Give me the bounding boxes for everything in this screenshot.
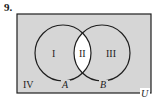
region-label-iii: III <box>106 48 116 59</box>
region-label-ii: II <box>79 48 86 59</box>
venn-diagram: I II III IV A B U <box>0 0 159 98</box>
region-label-i: I <box>52 48 55 59</box>
set-label-b: B <box>100 79 106 90</box>
region-label-iv: IV <box>23 79 34 90</box>
universe-label: U <box>141 88 149 98</box>
set-label-a: A <box>61 79 69 90</box>
